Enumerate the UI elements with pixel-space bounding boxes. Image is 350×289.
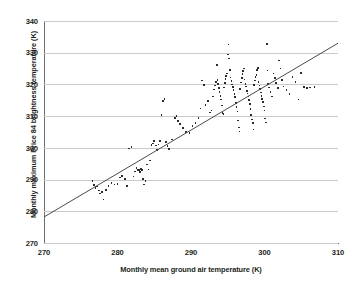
trend-line [44, 21, 338, 243]
y-axis-title: Monthly maximum Price 84 brightness temp… [29, 0, 38, 250]
x-tick-label: 290 [171, 248, 211, 257]
scatter-chart: 270280290300310320330340 270280290300310… [0, 0, 350, 289]
plot-area [44, 21, 338, 243]
x-axis-title: Monthly mean ground air temperature (K) [44, 265, 338, 274]
x-tick-label: 310 [318, 248, 350, 257]
gridline [44, 243, 338, 244]
x-tick-label: 280 [98, 248, 138, 257]
x-tick-label: 300 [245, 248, 285, 257]
